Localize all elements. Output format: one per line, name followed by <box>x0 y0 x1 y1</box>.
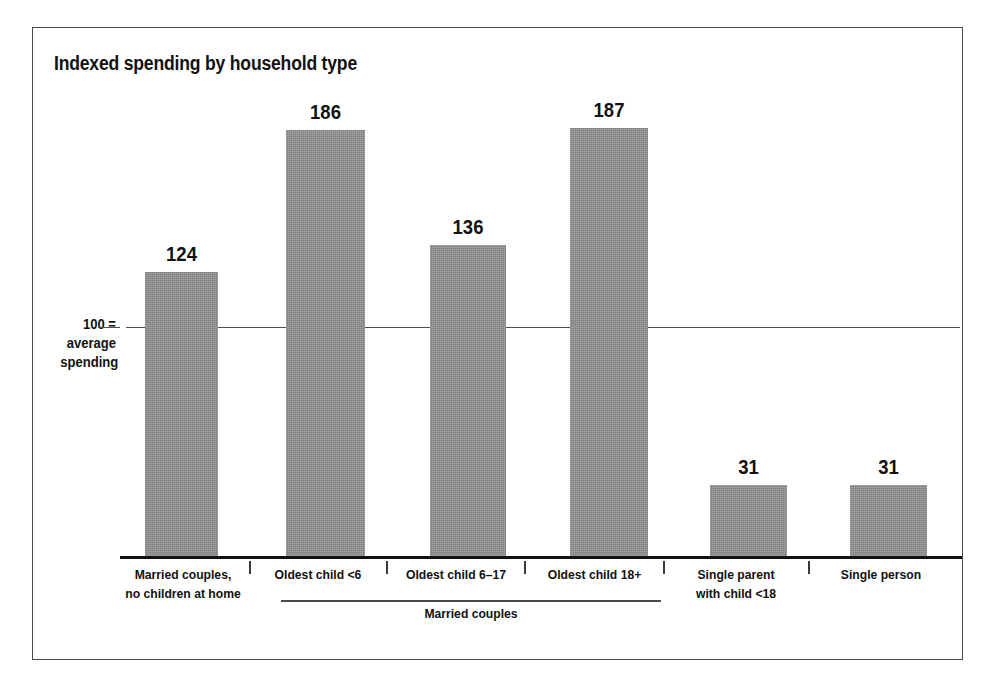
bar-married-no-children[interactable] <box>145 272 218 556</box>
category-label-line-1: Single parent <box>673 565 799 584</box>
bar-oldest-child-18-plus[interactable] <box>570 128 648 556</box>
bar-value-single-person: 31 <box>855 455 923 479</box>
category-label-line-1: Oldest child 6–17 <box>397 565 516 584</box>
bar-oldest-child-6-17[interactable] <box>430 245 506 556</box>
category-label-married-no-children: Married couples, no children at home <box>116 565 251 603</box>
bar-value-oldest-child-18-plus: 187 <box>575 98 644 122</box>
axis-tick-4 <box>663 561 665 574</box>
category-label-oldest-child-6-17: Oldest child 6–17 <box>397 565 516 584</box>
bar-value-single-parent-child-under-18: 31 <box>715 455 783 479</box>
reference-line-tick <box>98 327 120 328</box>
axis-caption-line-2: average <box>60 334 116 353</box>
category-label-line-2: with child <18 <box>673 584 799 603</box>
category-label-oldest-child-18-plus: Oldest child 18+ <box>535 565 655 584</box>
bar-oldest-child-under-6[interactable] <box>286 130 365 556</box>
category-label-line-2: no children at home <box>116 584 251 603</box>
axis-caption-line-1: 100 = <box>60 315 116 334</box>
axis-tick-2 <box>386 561 388 574</box>
bar-single-person[interactable] <box>850 485 927 556</box>
axis-tick-3 <box>524 561 526 574</box>
category-label-line-1: Married couples, <box>116 565 251 584</box>
chart-title: Indexed spending by household type <box>54 52 357 75</box>
category-label-line-1: Single person <box>819 565 943 584</box>
category-label-single-person: Single person <box>819 565 943 584</box>
category-label-oldest-child-under-6: Oldest child <6 <box>259 565 378 584</box>
bar-value-oldest-child-under-6: 186 <box>291 100 361 124</box>
x-axis-baseline <box>120 556 962 559</box>
axis-tick-5 <box>808 561 810 574</box>
category-label-single-parent-child-under-18: Single parent with child <18 <box>673 565 799 603</box>
group-bracket-line <box>281 600 661 602</box>
axis-caption: 100 = average spending <box>60 315 116 372</box>
axis-caption-line-3: spending <box>60 353 116 372</box>
category-label-line-1: Oldest child 18+ <box>535 565 655 584</box>
bar-value-married-no-children: 124 <box>149 242 213 266</box>
group-bracket-label: Married couples <box>300 606 642 621</box>
category-label-line-1: Oldest child <6 <box>259 565 378 584</box>
reference-line-100 <box>126 327 960 328</box>
plot-area: 124 186 136 187 31 31 <box>120 95 960 558</box>
bar-value-oldest-child-6-17: 136 <box>435 215 502 239</box>
bar-single-parent-child-under-18[interactable] <box>710 485 787 556</box>
